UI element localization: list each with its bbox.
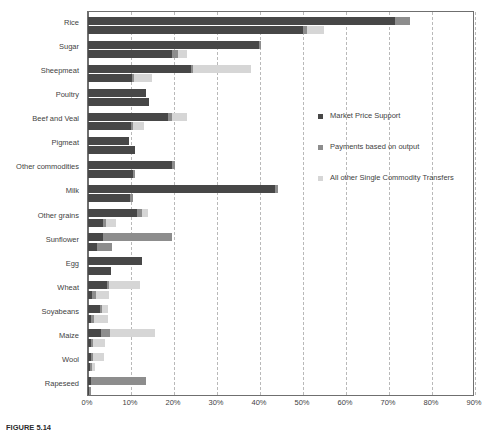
bar-sunflower-1 [88,243,112,251]
category-label-sugar: Sugar [59,42,79,51]
table-row [88,253,473,277]
bar-beef-and-veal-1 [88,122,144,130]
bar-soyabeans-0 [88,305,108,313]
bar-other-commodities-0 [88,161,175,169]
legend-label-2: All other Single Commodity Transfers [330,173,454,182]
bar-other-grains-0 [88,209,148,217]
category-label-egg: Egg [66,259,79,268]
x-tick-90: 90% [466,398,481,407]
bar-segment-0 [88,161,172,169]
bar-egg-1 [88,267,111,275]
category-label-rice: Rice [64,18,79,27]
bar-segment-0 [88,209,137,217]
table-row [88,277,473,301]
bar-pigmeat-1 [88,146,135,154]
category-label-other-commodities: Other commodities [16,162,79,171]
chart-root: RiceSugarSheepmeatPoultryBeef and VealPi… [0,0,488,432]
category-label-rapeseed: Rapeseed [45,379,79,388]
chart-legend: Market Price SupportPayments based on ou… [318,112,478,205]
legend-label-0: Market Price Support [330,111,400,120]
bar-pigmeat-0 [88,137,129,145]
bar-segment-0 [88,65,191,73]
bar-segment-0 [88,243,97,251]
legend-label-1: Payments based on output [330,142,419,151]
bar-segment-1 [97,243,112,251]
legend-swatch-icon-2 [318,176,323,181]
bar-segment-1 [103,233,172,241]
bar-wool-0 [88,353,104,361]
bar-segment-0 [88,267,111,275]
bar-segment-2 [133,122,144,130]
table-row [88,349,473,373]
bar-sheepmeat-0 [88,65,251,73]
bar-segment-2 [93,339,105,347]
bar-segment-0 [88,329,101,337]
bar-wool-1 [88,363,95,371]
legend-swatch-icon-1 [318,145,323,150]
bar-sunflower-0 [88,233,172,241]
category-label-wheat: Wheat [57,283,79,292]
bar-segment-0 [88,194,130,202]
bar-segment-0 [88,146,135,154]
x-tick-40: 40% [251,398,266,407]
table-row [88,325,473,349]
bar-segment-1 [133,170,135,178]
bar-segment-1 [101,329,110,337]
bar-segment-2 [102,305,108,313]
bar-segment-0 [88,98,149,106]
category-label-sunflower: Sunflower [46,235,79,244]
category-label-wool: Wool [62,355,79,364]
bar-segment-0 [88,137,129,145]
x-tick-70: 70% [380,398,395,407]
category-label-beef-and-veal: Beef and Veal [32,114,79,123]
legend-item-0[interactable]: Market Price Support [318,112,478,143]
bar-segment-2 [93,353,104,361]
bar-beef-and-veal-0 [88,113,187,121]
bar-segment-0 [88,185,275,193]
bar-segment-0 [88,89,146,97]
bar-segment-0 [88,257,142,265]
legend-item-2[interactable]: All other Single Commodity Transfers [318,174,478,205]
x-tick-80: 80% [423,398,438,407]
bar-segment-2 [193,65,251,73]
bar-wheat-0 [88,281,140,289]
figure-caption: FIGURE 5.14 [6,423,51,432]
bar-segment-0 [88,170,133,178]
bar-sheepmeat-1 [88,74,152,82]
bar-segment-0 [88,113,168,121]
table-row [88,373,473,397]
table-row [88,229,473,253]
bar-segment-1 [172,161,175,169]
bar-segment-0 [88,41,259,49]
legend-swatch-icon-0 [318,114,323,119]
table-row [88,60,473,84]
bar-other-commodities-1 [88,170,135,178]
bar-maize-1 [88,339,105,347]
bar-segment-1 [275,185,278,193]
x-tick-10: 10% [122,398,137,407]
category-label-other-grains: Other grains [38,211,79,220]
bar-segment-2 [307,26,324,34]
bar-segment-1 [91,377,147,385]
legend-item-1[interactable]: Payments based on output [318,143,478,174]
bar-segment-0 [88,122,131,130]
bar-segment-0 [88,233,103,241]
bar-wheat-1 [88,291,109,299]
bar-segment-2 [110,329,155,337]
bar-segment-2 [92,363,95,371]
table-row [88,301,473,325]
table-row [88,36,473,60]
category-label-pigmeat: Pigmeat [51,138,79,147]
bar-rapeseed-1 [88,387,91,395]
x-tick-30: 30% [208,398,223,407]
bar-segment-2 [142,209,148,217]
bar-segment-2 [178,50,187,58]
bar-segment-0 [88,74,132,82]
category-label-poultry: Poultry [56,90,79,99]
x-tick-60: 60% [337,398,352,407]
bar-soyabeans-1 [88,315,108,323]
bar-segment-0 [88,26,303,34]
bar-segment-2 [96,291,110,299]
bar-milk-0 [88,185,278,193]
bar-segment-0 [88,219,103,227]
